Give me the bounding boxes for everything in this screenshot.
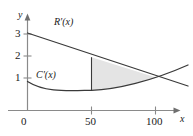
curve-label-marginal-revenue: R'(x) [54, 17, 73, 27]
x-tick-label-50: 50 [85, 116, 96, 127]
y-tick-label-2: 2 [15, 50, 21, 61]
curve-label-marginal-cost: C'(x) [36, 70, 56, 80]
y-axis-label: y [18, 10, 22, 20]
x-tick-label-100: 100 [146, 116, 163, 127]
y-axis-arrow-icon [25, 14, 31, 21]
x-axis-label: x [180, 114, 184, 124]
figure-canvas [0, 0, 193, 136]
y-tick-label-3: 3 [15, 28, 21, 39]
marginal-revenue-cost-figure: y x 0 50 100 1 2 3 R'(x) C'(x) [0, 0, 193, 136]
shaded-region-between-curves [92, 57, 157, 90]
origin-tick-label: 0 [21, 116, 27, 127]
y-tick-label-1: 1 [15, 72, 21, 83]
